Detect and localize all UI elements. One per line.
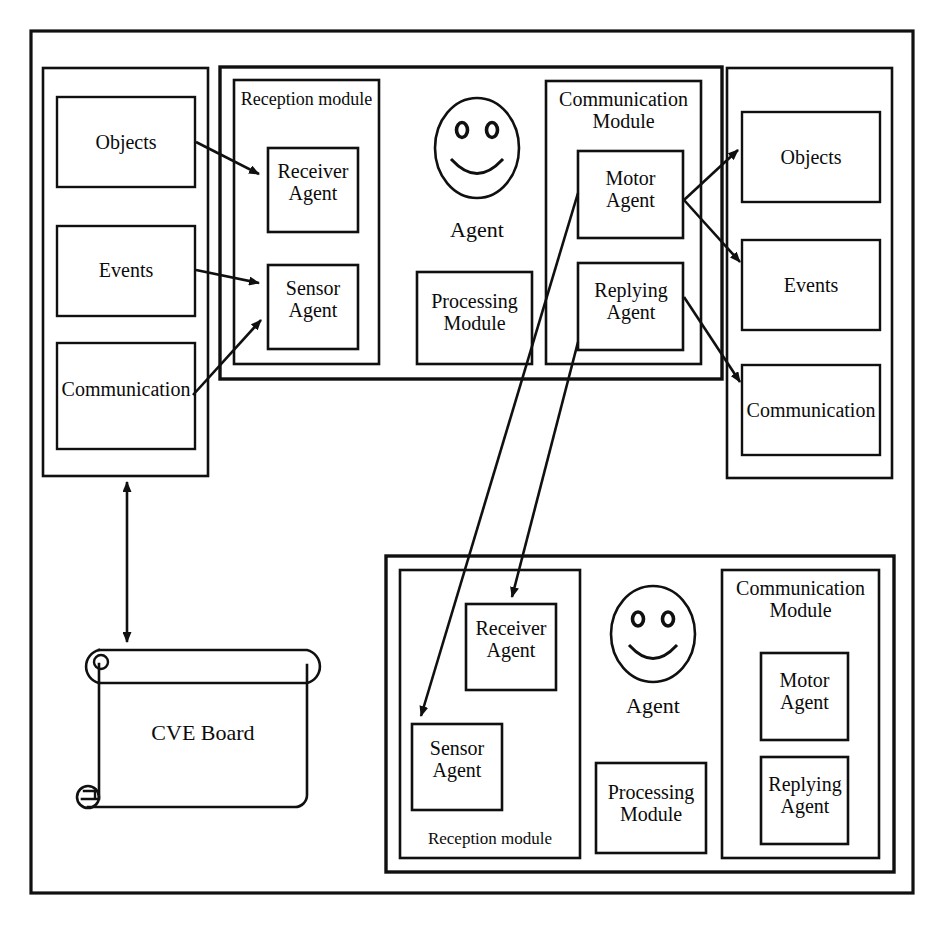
arrow-motor-agent-to-objects <box>684 150 738 200</box>
cve-board-shape <box>99 650 320 683</box>
top-receiver-agent-box <box>268 148 358 232</box>
top-replying-agent-box <box>578 263 683 350</box>
bottom-agent-smiley-left-eye-icon <box>633 612 644 626</box>
top-agent-smiley-face-icon <box>435 98 519 198</box>
arrow-motor-agent-to-events <box>684 200 740 262</box>
right-repository-container <box>727 68 892 478</box>
left-events-box <box>57 226 195 316</box>
cve-board-top-roll-inner-icon <box>94 655 108 669</box>
top-sensor-agent-box <box>268 265 358 349</box>
bottom-communication-module-box <box>722 570 879 858</box>
top-agent-smiley-mouth-icon <box>452 160 502 174</box>
bottom-processing-module-box <box>596 763 706 853</box>
top-agent-box <box>220 67 722 379</box>
bottom-replying-agent-box <box>761 757 848 844</box>
bottom-agent-box <box>386 556 894 872</box>
right-communication-box <box>742 365 880 455</box>
bottom-reception-module-box <box>400 570 580 858</box>
outer-frame <box>31 31 913 893</box>
bottom-agent-smiley-face-icon <box>611 586 695 682</box>
bottom-agent-smiley-mouth-icon <box>630 646 676 659</box>
left-repository-container <box>43 68 208 476</box>
bottom-receiver-agent-box <box>466 604 556 690</box>
arrow-replying-agent-to-communication <box>684 297 740 382</box>
cve-board-body <box>82 664 307 807</box>
diagram-canvas: Objects Events Communication Reception m… <box>0 0 934 928</box>
top-processing-module-box <box>417 272 532 364</box>
arrow-events-to-sensor-agent <box>196 270 259 283</box>
right-objects-box <box>742 112 880 202</box>
left-communication-box <box>57 343 195 449</box>
bottom-motor-agent-box <box>761 653 848 740</box>
left-objects-box <box>57 97 195 187</box>
top-agent-smiley-left-eye-icon <box>457 123 468 138</box>
top-agent-smiley-right-eye-icon <box>487 123 498 138</box>
bottom-sensor-agent-box <box>412 724 502 810</box>
top-motor-agent-box <box>578 151 683 238</box>
diagram-vector-layer <box>0 0 934 928</box>
arrow-communication-to-sensor-agent <box>193 320 261 395</box>
bottom-agent-smiley-right-eye-icon <box>663 612 674 626</box>
cve-board-bottom-roll-inner-icon <box>84 791 95 797</box>
right-events-box <box>742 240 880 330</box>
arrow-objects-to-receiver-agent <box>196 142 259 174</box>
